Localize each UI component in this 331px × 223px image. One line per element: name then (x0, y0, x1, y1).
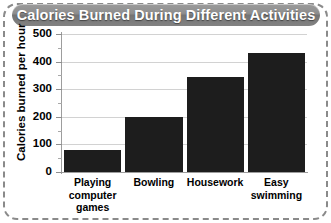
y-axis-major-tick (56, 172, 62, 173)
y-axis-minor-tick (58, 158, 62, 159)
y-axis-minor-tick (58, 48, 62, 49)
category-label-line: Housework (185, 176, 246, 189)
y-axis-tick-label: 300 (4, 83, 52, 95)
category-label-line: computer (62, 189, 123, 202)
y-axis-tick-label: 400 (4, 56, 52, 68)
y-axis-tick-label: 0 (4, 166, 52, 178)
plot-area (62, 34, 307, 172)
category-label-line: Bowling (123, 176, 184, 189)
y-axis-minor-tick (58, 131, 62, 132)
y-axis-minor-tick (58, 75, 62, 76)
chart-figure: Calories Burned During Different Activit… (0, 0, 331, 223)
y-axis-major-tick (56, 117, 62, 118)
bar (125, 117, 182, 172)
x-axis-category-label: Easyswimming (246, 176, 307, 201)
x-axis-line (57, 172, 308, 173)
y-axis-tick-label: 100 (4, 138, 52, 150)
page-title: Calories Burned During Different Activit… (17, 7, 316, 23)
y-axis-tick-label: 200 (4, 111, 52, 123)
y-axis-major-tick (56, 89, 62, 90)
bar (187, 77, 244, 172)
y-axis-major-tick (56, 34, 62, 35)
y-axis-tick-labels: 0100200300400500 (0, 28, 52, 188)
x-axis-category-label: Bowling (123, 176, 184, 189)
y-axis-tick-label: 500 (4, 28, 52, 40)
category-label-line: games (62, 201, 123, 214)
y-axis-minor-tick (58, 103, 62, 104)
category-label-line: swimming (246, 189, 307, 202)
chart-title-bar: Calories Burned During Different Activit… (12, 4, 320, 26)
category-label-line: Easy (246, 176, 307, 189)
bar (64, 150, 121, 172)
bar-chart: Calories burned per hour 010020030040050… (0, 28, 331, 223)
y-axis-major-tick (56, 62, 62, 63)
x-axis-category-label: Housework (185, 176, 246, 189)
category-label-line: Playing (62, 176, 123, 189)
y-axis-major-tick (56, 144, 62, 145)
x-axis-category-label: Playingcomputergames (62, 176, 123, 214)
gridline (62, 34, 307, 35)
bar (248, 53, 305, 172)
x-axis-category-labels: PlayingcomputergamesBowlingHouseworkEasy… (62, 176, 307, 222)
